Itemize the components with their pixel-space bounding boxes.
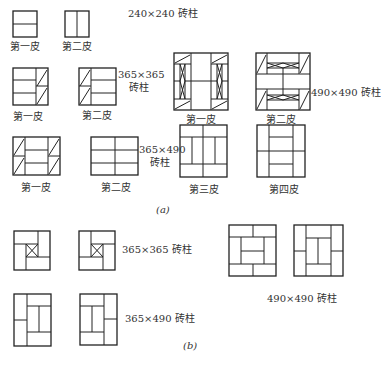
label-365x490-layer2: 第二皮 [101,182,131,194]
label-365x490-unit: 砖柱 [150,157,170,169]
label-490-layer1: 第一皮 [186,114,216,126]
b-365x490-layer1 [14,294,51,346]
label-240x240: 240×240 砖柱 [128,8,198,20]
label-490x490: 490×490 砖柱 [311,87,381,99]
label-365x490-layer3: 第三皮 [189,184,219,196]
b-490-layer1 [229,225,276,276]
label-365x490-size: 365×490 [139,144,186,156]
label-b-365x490: 365×490 砖柱 [125,313,195,325]
label-365-layer2: 第二皮 [82,110,112,122]
a-365x490-layer2 [91,137,138,175]
a-490-layer2 [256,53,310,110]
a-365-layer1 [13,68,48,105]
a-365x490-layer1 [13,137,60,175]
label-365x365-size: 365×365 [118,69,165,81]
a-365-layer2 [79,68,116,105]
b-490-layer2 [294,225,343,276]
caption-a: (a) [156,204,170,216]
b-365-layer2 [79,231,115,270]
b-365-layer1 [14,231,50,270]
caption-b: (b) [183,340,197,352]
label-b-490x490: 490×490 砖柱 [267,293,337,305]
label-b-365x365: 365×365 砖柱 [122,244,192,256]
label-240-layer2: 第二皮 [62,41,92,53]
label-240-layer1: 第一皮 [10,41,40,53]
b-365x490-layer2 [80,294,117,345]
label-365x490-layer1: 第一皮 [21,182,51,194]
label-365x365-unit: 砖柱 [129,82,149,94]
label-490-layer2: 第二皮 [266,114,296,126]
a-240-layer2 [65,11,89,37]
a-490-layer1 [174,53,228,110]
label-365x490-layer4: 第四皮 [269,184,299,196]
a-365x490-layer3 [180,125,227,177]
a-240-layer1 [13,11,37,37]
a-365x490-layer4 [257,125,305,177]
label-365-layer1: 第一皮 [13,111,43,123]
